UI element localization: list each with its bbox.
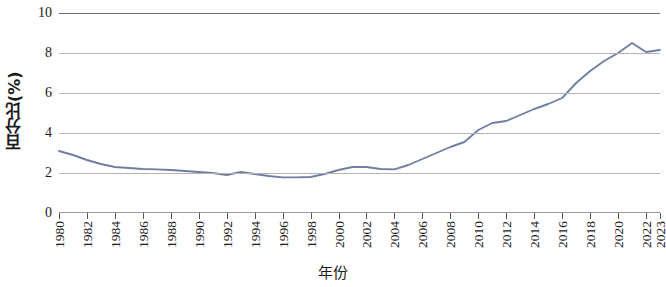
x-axis-title: 年份: [0, 261, 666, 282]
gridline-8: [59, 53, 660, 54]
x-tick-label-2018: 2018: [583, 221, 599, 248]
gridline-6: [59, 93, 660, 94]
x-tick-label-1990: 1990: [192, 221, 208, 248]
y-tick-label-4: 4: [28, 125, 52, 141]
x-tick-2022: [646, 213, 647, 219]
y-tick-label-6: 6: [28, 85, 52, 101]
x-tick-2014: [534, 213, 535, 219]
x-tick-label-1984: 1984: [108, 221, 124, 248]
x-tick-label-2020: 2020: [611, 221, 627, 248]
x-tick-2020: [618, 213, 619, 219]
gridline-10: [59, 13, 660, 14]
x-tick-label-1996: 1996: [276, 221, 292, 248]
x-tick-2010: [478, 213, 479, 219]
line-chart: 百分比(%) 1086420 1980198219841986198819901…: [0, 0, 666, 287]
x-tick-label-2000: 2000: [332, 221, 348, 248]
x-tick-2023: [660, 213, 661, 219]
x-tick-1998: [311, 213, 312, 219]
data-series-line: [59, 13, 660, 213]
x-tick-1984: [115, 213, 116, 219]
x-tick-label-2004: 2004: [387, 221, 403, 248]
x-tick-label-1986: 1986: [136, 221, 152, 248]
x-tick-2008: [450, 213, 451, 219]
gridline-2: [59, 173, 660, 174]
x-tick-label-1994: 1994: [248, 221, 264, 248]
x-tick-1988: [171, 213, 172, 219]
x-tick-1990: [199, 213, 200, 219]
x-axis-ticks: [59, 213, 660, 219]
x-tick-label-1982: 1982: [80, 221, 96, 248]
plot-area: [59, 13, 660, 213]
x-tick-1994: [255, 213, 256, 219]
x-tick-2004: [394, 213, 395, 219]
x-tick-2012: [506, 213, 507, 219]
y-tick-label-0: 0: [28, 205, 52, 221]
y-axis-tick-labels: 1086420: [24, 0, 52, 287]
x-tick-label-2006: 2006: [415, 221, 431, 248]
y-tick-label-8: 8: [28, 45, 52, 61]
x-tick-label-2016: 2016: [555, 221, 571, 248]
series-polyline: [59, 43, 660, 177]
y-tick-label-2: 2: [28, 165, 52, 181]
x-tick-label-2010: 2010: [471, 221, 487, 248]
x-tick-label-2014: 2014: [527, 221, 543, 248]
x-tick-label-1992: 1992: [220, 221, 236, 248]
x-tick-2016: [562, 213, 563, 219]
x-tick-label-2008: 2008: [443, 221, 459, 248]
x-tick-1982: [87, 213, 88, 219]
x-tick-2006: [422, 213, 423, 219]
x-tick-1986: [143, 213, 144, 219]
x-tick-1980: [59, 213, 60, 219]
x-tick-2002: [366, 213, 367, 219]
gridline-4: [59, 133, 660, 134]
x-tick-label-2012: 2012: [499, 221, 515, 248]
x-tick-label-2023: 2023: [653, 221, 666, 248]
x-tick-label-1988: 1988: [164, 221, 180, 248]
x-tick-1996: [283, 213, 284, 219]
x-tick-label-1998: 1998: [304, 221, 320, 248]
x-tick-1992: [227, 213, 228, 219]
x-tick-label-2002: 2002: [359, 221, 375, 248]
x-tick-2000: [339, 213, 340, 219]
x-tick-2018: [590, 213, 591, 219]
x-tick-label-1980: 1980: [52, 221, 68, 248]
y-tick-label-10: 10: [28, 5, 52, 21]
x-axis-tick-labels: 1980198219841986198819901992199419961998…: [59, 221, 660, 261]
